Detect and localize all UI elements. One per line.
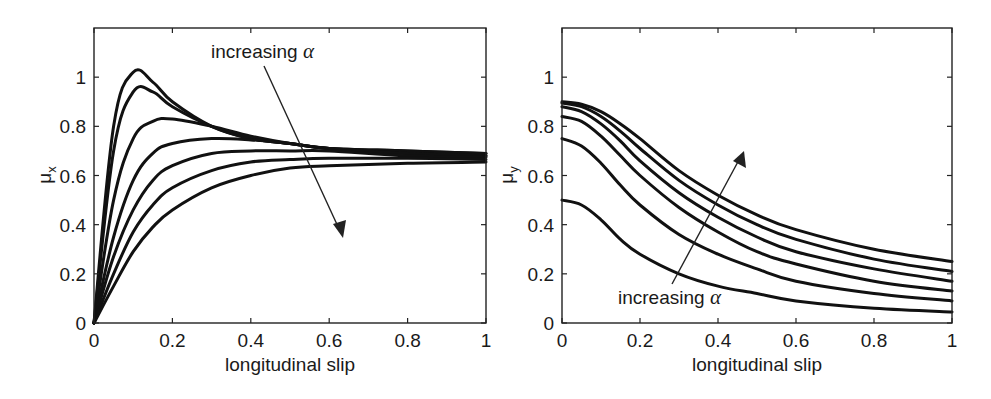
mu-y-arrowhead-icon (733, 151, 746, 168)
y-tick-label: 0.4 (528, 215, 555, 236)
y-tick-label: 0.4 (60, 215, 87, 236)
figure: 00.20.40.60.8100.20.40.60.81 longitudina… (0, 0, 991, 399)
mu-y-chart: 00.20.40.60.8100.20.40.60.81 longitudina… (496, 28, 957, 375)
x-tick-label: 0.8 (394, 330, 420, 351)
y-tick-label: 0.8 (528, 116, 554, 137)
curve-α1 (94, 70, 486, 323)
x-tick-label: 0 (557, 330, 568, 351)
y-tick-label: 0 (75, 313, 86, 334)
y-tick-label: 0.2 (60, 264, 86, 285)
curve-α4 (94, 138, 486, 323)
mu-y-ticks (562, 28, 952, 323)
mu-x-ylabel: μx (34, 166, 59, 184)
x-tick-label: 0.4 (238, 330, 265, 351)
y-tick-label: 0.6 (528, 166, 554, 187)
mu-y-plot-frame (562, 28, 952, 323)
curve-α5 (94, 151, 486, 324)
mu-x-arrowhead-icon (333, 220, 346, 238)
x-tick-label: 0.8 (861, 330, 887, 351)
curve-α2 (562, 139, 952, 301)
x-tick-label: 0 (89, 330, 100, 351)
mu-x-plot-frame (94, 28, 486, 323)
mu-y-arrow (672, 158, 740, 284)
mu-x-xlabel: longitudinal slip (225, 354, 355, 375)
mu-y-annotation-label: increasing α (618, 285, 722, 309)
mu-x-chart: 00.20.40.60.8100.20.40.60.81 longitudina… (34, 28, 491, 375)
x-tick-label: 0.2 (627, 330, 653, 351)
mu-x-ticks (94, 28, 486, 323)
mu-x-annotation-label: increasing α (211, 39, 315, 63)
y-tick-label: 0 (543, 313, 554, 334)
mu-y-curves (562, 102, 952, 312)
y-tick-label: 1 (75, 67, 86, 88)
x-tick-label: 1 (481, 330, 492, 351)
x-tick-label: 0.6 (783, 330, 809, 351)
y-tick-label: 0.2 (528, 264, 554, 285)
x-tick-label: 0.4 (705, 330, 732, 351)
y-tick-label: 1 (543, 67, 554, 88)
mu-y-xlabel: longitudinal slip (692, 354, 822, 375)
mu-x-curves (94, 70, 486, 323)
x-tick-label: 0.6 (316, 330, 342, 351)
x-tick-label: 1 (947, 330, 958, 351)
y-tick-label: 0.8 (60, 116, 86, 137)
x-tick-label: 0.2 (159, 330, 185, 351)
curve-α7 (94, 162, 486, 323)
curve-α3 (94, 118, 486, 323)
curve-α6 (94, 158, 486, 323)
mu-y-ylabel: μy (496, 166, 521, 184)
y-tick-label: 0.6 (60, 166, 86, 187)
